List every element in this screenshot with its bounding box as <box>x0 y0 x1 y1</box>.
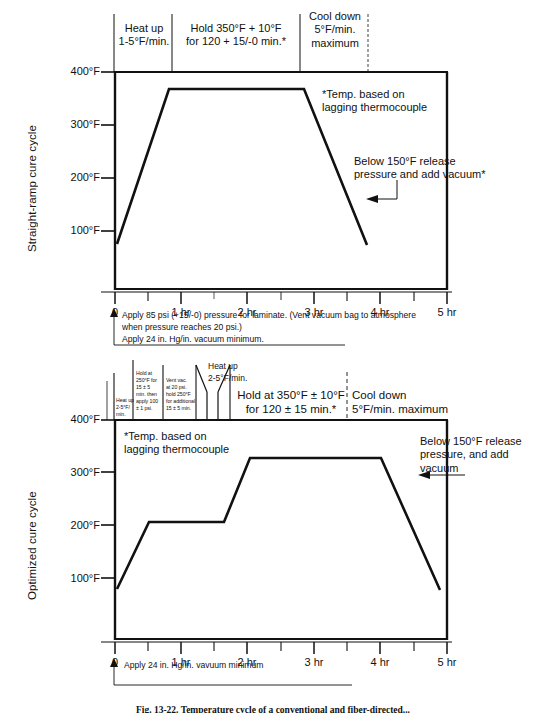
chart1-phase-heatup-label: Heat up 1-5°F/min. <box>116 22 172 49</box>
chart2-xtick-5hr: 5 hr <box>429 656 465 669</box>
chart1-phase-hold-label: Hold 350°F + 10°F for 120 + 15/-0 min.* <box>172 22 300 49</box>
chart2-phase-ventvac-label: Vent vac. at 20 psi. hold 250°F for addi… <box>166 377 196 412</box>
figure-caption: Fig. 13-22. Temperature cycle of a conve… <box>73 705 473 713</box>
figure-page: Straight-ramp cure cycle <box>0 0 546 713</box>
chart2-thermocouple-note: *Temp. based on lagging thermocouple <box>124 430 229 457</box>
chart1-xtick-5hr: 5 hr <box>429 306 465 319</box>
chart1-phase-cooldown-label: Cool down 5°F/min. maximum <box>300 10 370 50</box>
chart1-footnote-line1: Apply 85 psi (+15/-0) pressure for lamin… <box>122 310 416 322</box>
chart2-xtick-4hr: 4 hr <box>362 656 398 669</box>
chart1-footnote-line2: when pressure reaches 20 psi.) <box>122 322 242 334</box>
chart1-ytick-300: 300°F <box>58 118 100 131</box>
chart2-ytick-400: 400°F <box>58 413 100 426</box>
chart-straight-ramp-cure-cycle: Straight-ramp cure cycle <box>0 0 546 352</box>
chart2-phase-hold350-label: Hold at 350°F ± 10°F for 120 ± 15 min.* <box>234 388 348 416</box>
chart1-release-pressure-note: Below 150°F release pressure and add vac… <box>354 155 485 182</box>
chart1-thermocouple-note: *Temp. based on lagging thermocouple <box>322 88 427 115</box>
chart2-ytick-200: 200°F <box>58 519 100 532</box>
chart-optimized-cure-cycle: Optimized cure cycle <box>0 340 546 713</box>
chart2-footnote-line1: Apply 24 in. Hg/in. vavuum minimum <box>124 660 263 672</box>
chart2-ytick-100: 100°F <box>58 572 100 585</box>
chart2-release-pressure-note: Below 150°F release pressure, and add va… <box>420 435 522 475</box>
chart2-phase-cooldown-label: Cool down 5°F/min. maximum <box>352 388 448 416</box>
chart2-phase-hold250-label: Hold at 250°F for 15 ± 5 min. then apply… <box>136 370 163 412</box>
chart1-ytick-200: 200°F <box>58 171 100 184</box>
chart2-phase-heatup2-label: Heat up 2-5°F/min. <box>208 360 247 385</box>
chart2-phase-heatup-small-label: Heat up 2-5°F/ min. <box>116 397 133 418</box>
chart1-ytick-100: 100°F <box>58 224 100 237</box>
chart2-xtick-0: 0 <box>105 656 125 669</box>
chart2-ytick-300: 300°F <box>58 466 100 479</box>
chart1-ytick-400: 400°F <box>58 65 100 78</box>
chart2-xtick-3hr: 3 hr <box>296 656 332 669</box>
